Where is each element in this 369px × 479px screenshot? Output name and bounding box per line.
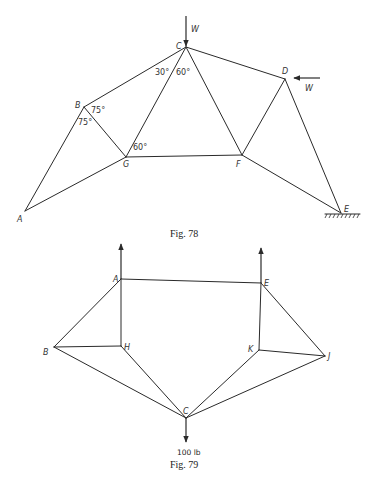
node-label-h: H <box>124 343 130 352</box>
angle-label-b-upper: 75° <box>91 106 105 115</box>
member-DF <box>242 79 285 155</box>
load-arrow-d: W <box>294 78 320 93</box>
figure-79: 100 lb A B C E H J K Fig. 79 <box>43 244 331 470</box>
load-label-d: W <box>305 84 314 93</box>
node-label-e: E <box>264 279 270 288</box>
node-label-c: C <box>176 42 182 51</box>
figure-78: W W A B C D E F G 30° 60° 75 <box>16 16 360 239</box>
figure-78-caption: Fig. 78 <box>170 228 198 239</box>
member-KJ <box>259 350 325 356</box>
textbook-page: W W A B C D E F G 30° 60° 75 <box>0 0 369 479</box>
member-BC <box>84 47 186 107</box>
member-DE <box>285 79 341 213</box>
member-HC <box>121 346 186 418</box>
member-KC <box>186 350 259 418</box>
member-JC <box>186 356 325 418</box>
node-label-j: J <box>326 352 331 361</box>
member-BC <box>54 347 186 418</box>
load-label-c: W <box>191 25 200 34</box>
node-label-b: B <box>75 101 81 110</box>
node-label-a: A <box>112 275 118 284</box>
member-CF <box>186 47 242 155</box>
node-label-b: B <box>43 348 49 357</box>
member-AE <box>121 279 261 283</box>
member-CD <box>186 47 285 79</box>
member-FE <box>242 155 341 213</box>
load-label-c: 100 lb <box>177 448 201 457</box>
angle-label-b-lower: 75° <box>78 118 92 127</box>
member-CG <box>126 47 186 157</box>
angle-label-c-right: 60° <box>176 68 190 77</box>
node-label-f: F <box>236 160 241 169</box>
node-label-k: K <box>248 345 254 354</box>
member-AB <box>54 279 121 347</box>
angle-label-c-left: 30° <box>155 68 169 77</box>
member-EK <box>259 283 261 350</box>
load-arrow-c: W <box>186 16 200 46</box>
node-label-g: G <box>123 160 129 169</box>
node-label-e: E <box>344 205 350 214</box>
member-BH <box>54 346 121 347</box>
node-label-a: A <box>16 215 22 224</box>
node-label-c: C <box>183 407 189 416</box>
figure-79-caption: Fig. 79 <box>170 459 198 470</box>
angle-label-g: 60° <box>133 143 147 152</box>
truss-figures: W W A B C D E F G 30° 60° 75 <box>0 0 369 479</box>
member-GF <box>126 155 242 157</box>
member-EJ <box>261 283 325 356</box>
node-label-d: D <box>282 67 288 76</box>
ground-support-e <box>325 214 360 218</box>
